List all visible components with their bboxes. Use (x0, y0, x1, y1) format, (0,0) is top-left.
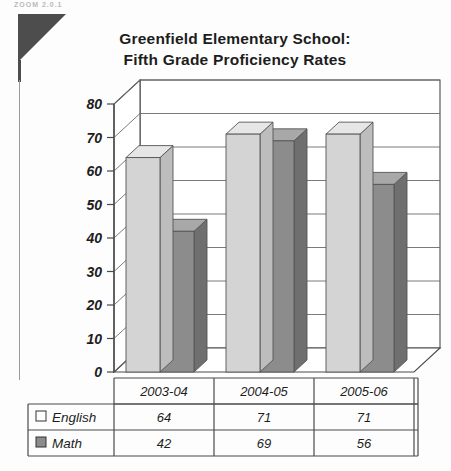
table-column-header: 2004-05 (239, 384, 288, 399)
bar-side-face (160, 146, 173, 372)
table-column-header: 2005-06 (339, 384, 388, 399)
table-cell-value: 64 (157, 410, 171, 425)
legend-label-math: Math (52, 436, 82, 451)
y-axis-tick-label: 50 (86, 197, 102, 213)
legend-label-english: English (52, 410, 96, 425)
data-table: 2003-042004-052005-06English647171Math42… (28, 378, 418, 456)
table-column-header: 2003-04 (139, 384, 188, 399)
y-axis-tick-label: 10 (86, 331, 102, 347)
y-axis-tick-label: 60 (86, 163, 102, 179)
bar-side-face (360, 122, 373, 372)
y-axis-tick-label: 20 (85, 297, 102, 313)
legend-swatch-math (36, 437, 46, 447)
bar-side-face (294, 129, 307, 372)
y-axis-tick-label: 40 (85, 230, 102, 246)
bar-english-2003-04 (126, 146, 173, 372)
table-cell-value: 71 (257, 410, 271, 425)
y-axis-tick-label: 80 (86, 96, 102, 112)
bar-english-2004-05 (226, 122, 273, 372)
table-cell-value: 42 (157, 436, 172, 451)
bar-front-face (126, 158, 160, 372)
y-axis-tick-label: 30 (86, 264, 102, 280)
bar-side-face (194, 219, 207, 372)
bar-front-face (326, 134, 360, 372)
bar-english-2005-06 (326, 122, 373, 372)
legend-swatch-english (36, 411, 46, 421)
bars-layer (126, 122, 407, 372)
table-cell-value: 56 (357, 436, 372, 451)
y-axis-tick-label: 70 (86, 130, 102, 146)
bar-front-face (226, 134, 260, 372)
bar-side-face (260, 122, 273, 372)
table-cell-value: 69 (257, 436, 271, 451)
table-cell-value: 71 (357, 410, 371, 425)
bar-side-face (394, 172, 407, 372)
bar-chart: 01020304050607080 2003-042004-052005-06E… (0, 0, 451, 471)
y-axis-tick-label: 0 (94, 364, 102, 380)
chart-svg: 01020304050607080 2003-042004-052005-06E… (0, 0, 451, 471)
worksheet-page: ZOOM 2.0.1 Greenfield Elementary School:… (0, 0, 451, 471)
